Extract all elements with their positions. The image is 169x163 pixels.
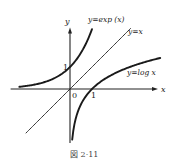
- x-tick-label: 1: [91, 91, 96, 100]
- function-plot: xy011y=exp (x)y=xy=log x図 2·11: [0, 0, 169, 163]
- y-tick-label: 1: [63, 63, 68, 72]
- x-axis-arrow: [152, 87, 158, 91]
- y-axis-label: y: [64, 17, 70, 26]
- figure-caption: 図 2·11: [70, 150, 98, 159]
- annotation-identity: y=x: [127, 27, 144, 36]
- x-axis-label: x: [161, 85, 166, 94]
- y-axis-arrow: [68, 27, 72, 33]
- annotation-exp: y=exp (x): [87, 15, 125, 24]
- annotation-log: y=log x: [126, 68, 157, 77]
- curve-identity: [26, 29, 131, 134]
- origin-label: 0: [72, 91, 77, 100]
